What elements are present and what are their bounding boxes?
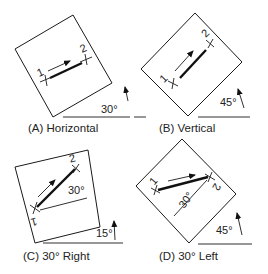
rotation-arrow-icon: [125, 87, 128, 101]
point-2-label: 2: [78, 41, 89, 54]
rotated-board: [15, 15, 112, 117]
panel-a: 30° 1 2 (A) Horizontal: [15, 15, 130, 134]
line-angle-label: 30°: [68, 184, 85, 196]
cross-mark-2: [208, 172, 212, 182]
line-angle-label: 30°: [176, 190, 195, 211]
caption: (B) Vertical: [159, 122, 215, 134]
cross-mark-2: [208, 39, 213, 48]
caption: (C) 30° Right: [23, 250, 90, 262]
rotated-board: [15, 150, 100, 243]
measured-line: [158, 177, 208, 190]
board-angle-label: 45°: [216, 224, 233, 236]
point-1-label: 1: [35, 65, 46, 78]
measured-line: [180, 50, 206, 78]
reference-line: [40, 198, 87, 210]
point-1-label: 1: [157, 72, 170, 85]
board-angle-label: 45°: [220, 96, 237, 108]
panel-b: 45° 1 2 (B) Vertical: [134, 13, 250, 134]
rotation-arrow-icon: [237, 213, 242, 235]
panel-d: 45° 30° 1 2 (D) 30° Left: [136, 139, 252, 262]
panel-c: 15° 30° 1 2 (C) 30° Right: [15, 150, 123, 262]
direction-arrow-icon: [168, 175, 195, 181]
board-angle-label: 15°: [96, 227, 113, 239]
diagram-canvas: 30° 1 2 (A) Horizontal 45° 1 2 (B) Verti…: [0, 0, 268, 274]
point-1-label: 1: [146, 175, 159, 187]
caption: (D) 30° Left: [159, 250, 219, 262]
rotation-arrow-icon: [238, 89, 244, 108]
point-2-label: 2: [210, 181, 223, 192]
direction-arrow-icon: [38, 180, 55, 197]
rotation-arrow-icon: [114, 221, 115, 240]
cross-mark-1: [45, 75, 47, 86]
measured-line: [50, 63, 82, 78]
board-angle-label: 30°: [101, 103, 118, 115]
caption: (A) Horizontal: [28, 122, 98, 134]
